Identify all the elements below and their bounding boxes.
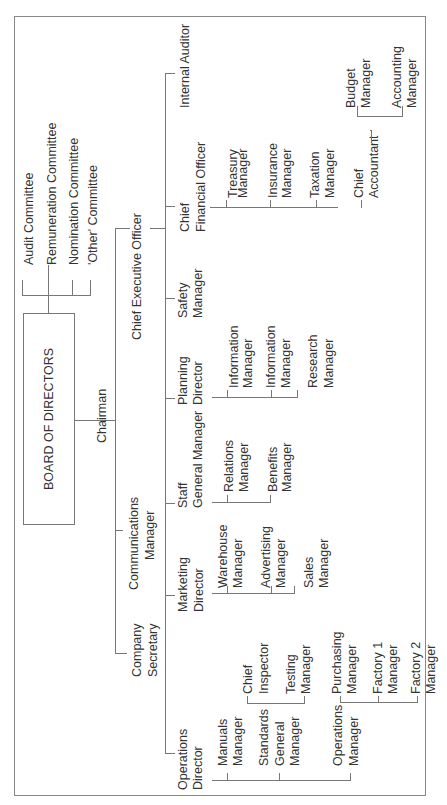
accounting-manager-line2: Manager [405, 59, 420, 108]
connector-line [22, 295, 90, 296]
factory2-manager-line2: Manager [424, 645, 439, 694]
connector-line [340, 696, 341, 703]
relations-manager-line2: Manager [237, 443, 252, 492]
treasury-manager-line2: Manager [236, 149, 251, 198]
connector-line [165, 595, 175, 596]
staff-gm-line1: Staff [176, 483, 191, 508]
connector-line [350, 773, 351, 781]
connector-line [210, 207, 338, 208]
testing-manager-line2: Manager [299, 645, 314, 694]
connector-line [115, 530, 123, 531]
connector-line [316, 200, 317, 208]
chairman-label: Chairman [95, 389, 110, 443]
chief-accountant-line2: Accountant [367, 135, 382, 198]
committee-nomination: Nomination Committee [67, 138, 82, 265]
communications-manager-line1: Communications [127, 497, 142, 590]
chart-frame [14, 16, 426, 796]
connector-line [165, 503, 175, 504]
advertising-manager-line2: Manager [274, 539, 289, 588]
marketing-director-line2: Director [192, 568, 207, 612]
board-of-directors-label: BOARD OF DIRECTORS [42, 348, 57, 490]
company-secretary-line2: Secretary [146, 624, 161, 678]
operations-director-line2: Director [191, 746, 206, 790]
connector-line [212, 502, 270, 503]
connector-line [165, 298, 175, 299]
connector-line [115, 228, 116, 653]
connector-line [165, 73, 166, 753]
factory1-manager-line2: Manager [386, 645, 401, 694]
operations-manager-line1: Operations [331, 705, 346, 766]
committee-remuneration: Remuneration Committee [45, 123, 60, 265]
connector-line [279, 773, 280, 781]
insurance-manager-line2: Manager [280, 149, 295, 198]
committee-audit: Audit Committee [22, 173, 37, 265]
safety-manager-line2: Manager [191, 269, 206, 318]
marketing-director-line1: Marketing [176, 557, 191, 612]
connector-line [247, 703, 304, 704]
connector-line [247, 696, 248, 704]
communications-manager-line2: Manager [143, 511, 158, 560]
budget-manager-line2: Manager [359, 59, 374, 108]
standards-gm-line1: Standards [257, 709, 272, 766]
connector-line [165, 753, 175, 754]
manuals-manager-line1: Manuals [216, 719, 231, 766]
connector-line [72, 280, 73, 296]
operations-director-line1: Operations [176, 729, 191, 790]
warehouse-manager-line2: Manager [231, 539, 246, 588]
committee-other: 'Other' Committee [86, 165, 101, 265]
chief-inspector-line2: Inspector [257, 643, 272, 694]
taxation-manager-line2: Manager [323, 149, 338, 198]
connector-line [150, 228, 165, 229]
standards-gm-line3: Manager [288, 717, 303, 766]
factory1-manager-line1: Factory 1 [371, 642, 386, 694]
budget-manager-line1: Budget [344, 68, 359, 108]
connector-line [90, 280, 91, 296]
information-manager-2-line2: Manager [279, 339, 294, 388]
connector-line [294, 586, 295, 594]
connector-line [227, 495, 228, 503]
taxation-manager-line1: Taxation [308, 151, 323, 198]
connector-line [212, 780, 350, 781]
connector-line [212, 593, 294, 594]
connector-line [165, 73, 175, 74]
ceo-label: Chief Executive Officer [130, 213, 145, 340]
chief-accountant-line1: Chief [352, 169, 367, 198]
connector-line [212, 397, 297, 398]
standards-gm-line2: General [273, 722, 288, 766]
purchasing-manager-line2: Manager [345, 645, 360, 694]
safety-manager-line1: Safety [176, 283, 191, 318]
connector-line [115, 653, 127, 654]
testing-manager-line1: Testing [284, 654, 299, 694]
staff-gm-line2: General Manager [191, 411, 206, 508]
research-manager-line1: Research [306, 335, 321, 389]
benefits-manager-line2: Manager [280, 443, 295, 492]
connector-line [270, 200, 271, 208]
information-manager-1-line1: Information [227, 325, 242, 388]
research-manager-line2: Manager [322, 339, 337, 388]
insurance-manager-line1: Insurance [266, 143, 281, 198]
chief-inspector-line1: Chief [241, 665, 256, 694]
connector-line [48, 280, 49, 296]
connector-line [361, 200, 362, 208]
warehouse-manager-line1: Warehouse [216, 525, 231, 588]
information-manager-2-line1: Information [264, 325, 279, 388]
connector-line [417, 696, 418, 703]
company-secretary-line1: Company [130, 624, 145, 678]
connector-line [340, 702, 418, 703]
connector-line [270, 495, 271, 503]
connector-line [304, 696, 305, 704]
relations-manager-line1: Relations [222, 440, 237, 492]
connector-line [271, 390, 272, 398]
connector-line [22, 280, 23, 296]
sales-manager-line2: Manager [317, 539, 332, 588]
planning-director-line2: Director [191, 361, 206, 405]
internal-auditor-label: Internal Auditor [178, 24, 193, 108]
connector-line [165, 398, 175, 399]
sales-manager-line1: Sales [302, 557, 317, 588]
cfo-line1: Chief [178, 203, 193, 232]
connector-line [227, 773, 228, 781]
connector-line [227, 390, 228, 398]
connector-line [226, 200, 227, 208]
information-manager-1-line2: Manager [241, 339, 256, 388]
purchasing-manager-line1: Purchasing [330, 631, 345, 694]
